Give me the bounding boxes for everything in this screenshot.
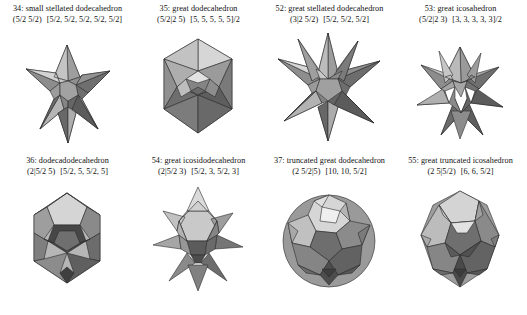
caption: 36: dodecadodecahedron (2|5/2 5)[5/2, 5,…: [2, 156, 133, 177]
wythoff-symbol: (2|5/2 5): [27, 167, 55, 176]
caption-title: truncated great dodecahedron: [287, 156, 385, 165]
caption-name: 55: great truncated icosahedron: [395, 156, 526, 167]
caption-name: 35: great dodecahedron: [133, 4, 264, 15]
wythoff-symbol: (2|5/2 3): [158, 167, 186, 176]
vertex-configuration: [5/2, 3, 5/2, 3]: [191, 167, 239, 176]
caption-symbols: (2 5|5/2)[6, 6, 5/2]: [395, 167, 526, 178]
wythoff-symbol: (5/2 5/2): [13, 15, 42, 24]
polyhedron-cell: 53: great icosahedron (5/2|2 3)[3, 3, 3,…: [395, 4, 526, 154]
polyhedra-plate: 34: small stellated dodecahedron (5/2 5/…: [0, 0, 527, 315]
caption-title: dodecadodecahedron: [39, 156, 109, 165]
polyhedra-row: 36: dodecadodecahedron (2|5/2 5)[5/2, 5,…: [0, 156, 527, 306]
caption-symbols: (5/2|2 3)[3, 3, 3, 3, 3]/2: [395, 15, 526, 26]
wythoff-symbol: (3|2 5/2): [290, 15, 318, 24]
caption-symbols: (2|5/2 5)[5/2, 5, 5/2, 5]: [2, 167, 133, 178]
caption-title: great dodecahedron: [172, 4, 237, 13]
wythoff-symbol: (5/2|2 3): [419, 15, 447, 24]
caption-name: 53: great icosahedron: [395, 4, 526, 15]
wythoff-symbol: (5/2|2 5): [157, 15, 185, 24]
polyhedron-cell: 55: great truncated icosahedron (2 5|5/2…: [395, 156, 526, 306]
caption-index: 55:: [408, 156, 419, 165]
caption-symbols: (3|2 5/2)[5/2, 5/2, 5/2]: [264, 15, 395, 26]
caption: 54: great icosidodecahedron (2|5/2 3)[5/…: [133, 156, 264, 177]
caption-index: 53:: [425, 4, 436, 13]
caption: 35: great dodecahedron (5/2|2 5)[5, 5, 5…: [133, 4, 264, 25]
caption-name: 36: dodecadodecahedron: [2, 156, 133, 167]
polyhedron-figure-great-dodecahedron: [133, 25, 264, 147]
vertex-configuration: [5/2, 5, 5/2, 5]: [60, 167, 108, 176]
caption-title: great stellated dodecahedron: [288, 4, 383, 13]
vertex-configuration: [6, 6, 5/2]: [461, 167, 494, 176]
polyhedron-cell: 54: great icosidodecahedron (2|5/2 3)[5/…: [133, 156, 264, 306]
polyhedron-figure-great-icosahedron: [395, 25, 526, 147]
polyhedron-figure-great-stellated-dodecahedron: [264, 25, 395, 147]
polyhedron-cell: 35: great dodecahedron (5/2|2 5)[5, 5, 5…: [133, 4, 264, 154]
caption: 37: truncated great dodecahedron (2 5/2|…: [264, 156, 395, 177]
vertex-configuration: [5, 5, 5, 5, 5]/2: [190, 15, 240, 24]
caption-index: 37:: [274, 156, 285, 165]
caption-name: 54: great icosidodecahedron: [133, 156, 264, 167]
caption-name: 34: small stellated dodecahedron: [2, 4, 133, 15]
caption-title: great truncated icosahedron: [421, 156, 513, 165]
polyhedron-cell: 36: dodecadodecahedron (2|5/2 5)[5/2, 5,…: [2, 156, 133, 306]
caption-title: great icosidodecahedron: [164, 156, 245, 165]
polyhedron-figure-small-stellated-dodecahedron: [2, 25, 133, 147]
caption-index: 54:: [152, 156, 163, 165]
vertex-configuration: [3, 3, 3, 3, 3]/2: [452, 15, 502, 24]
polyhedron-figure-dodecadodecahedron: [2, 177, 133, 299]
caption: 55: great truncated icosahedron (2 5|5/2…: [395, 156, 526, 177]
vertex-configuration: [5/2, 5/2, 5/2, 5/2, 5/2]: [47, 15, 122, 24]
caption-symbols: (2|5/2 3)[5/2, 3, 5/2, 3]: [133, 167, 264, 178]
wythoff-symbol: (2 5|5/2): [427, 167, 455, 176]
caption-title: small stellated dodecahedron: [26, 4, 122, 13]
caption-symbols: (2 5/2|5)[10, 10, 5/2]: [264, 167, 395, 178]
caption-name: 52: great stellated dodecahedron: [264, 4, 395, 15]
polyhedron-figure-truncated-great-dodecahedron: [264, 177, 395, 299]
caption: 52: great stellated dodecahedron (3|2 5/…: [264, 4, 395, 25]
polyhedron-cell: 52: great stellated dodecahedron (3|2 5/…: [264, 4, 395, 154]
caption-symbols: (5/2|2 5)[5, 5, 5, 5, 5]/2: [133, 15, 264, 26]
caption-index: 36:: [26, 156, 37, 165]
polyhedron-figure-great-truncated-icosahedron: [395, 177, 526, 299]
wythoff-symbol: (2 5/2|5): [292, 167, 320, 176]
caption-symbols: (5/2 5/2)[5/2, 5/2, 5/2, 5/2, 5/2]: [2, 15, 133, 26]
vertex-configuration: [5/2, 5/2, 5/2]: [323, 15, 369, 24]
polyhedron-figure-great-icosidodecahedron: [133, 177, 264, 299]
caption: 53: great icosahedron (5/2|2 3)[3, 3, 3,…: [395, 4, 526, 25]
caption-name: 37: truncated great dodecahedron: [264, 156, 395, 167]
caption-index: 35:: [160, 4, 171, 13]
caption: 34: small stellated dodecahedron (5/2 5/…: [2, 4, 133, 25]
polyhedron-cell: 34: small stellated dodecahedron (5/2 5/…: [2, 4, 133, 154]
caption-index: 34:: [13, 4, 24, 13]
polyhedra-row: 34: small stellated dodecahedron (5/2 5/…: [0, 4, 527, 154]
polyhedron-cell: 37: truncated great dodecahedron (2 5/2|…: [264, 156, 395, 306]
caption-index: 52:: [276, 4, 287, 13]
caption-title: great icosahedron: [437, 4, 496, 13]
vertex-configuration: [10, 10, 5/2]: [326, 167, 367, 176]
